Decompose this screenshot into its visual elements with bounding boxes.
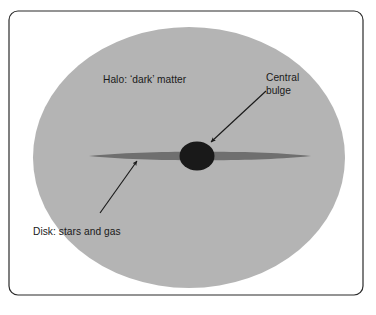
central-bulge-label-line2: bulge xyxy=(266,85,291,96)
central-bulge-ellipse xyxy=(180,142,215,171)
disk-label: Disk: stars and gas xyxy=(33,226,121,237)
halo-label: Halo: ‘dark’ matter xyxy=(103,74,187,85)
galaxy-structure-figure: Halo: ‘dark’ matter Central bulge Disk: … xyxy=(0,0,376,315)
central-bulge-label-line1: Central xyxy=(266,72,299,83)
diagram-canvas: Halo: ‘dark’ matter Central bulge Disk: … xyxy=(0,0,376,315)
